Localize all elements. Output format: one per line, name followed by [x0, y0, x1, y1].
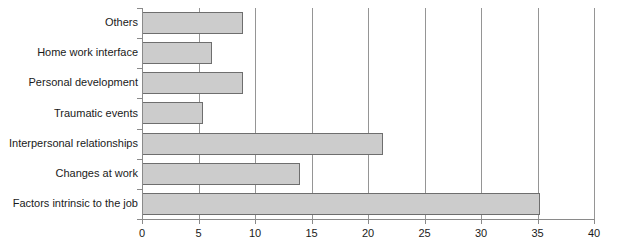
- category-label: Traumatic events: [4, 107, 138, 119]
- x-tick-label: 40: [588, 227, 600, 239]
- bar-chart: OthersHome work interfacePersonal develo…: [0, 0, 620, 251]
- x-tick: [481, 219, 482, 224]
- x-tick: [594, 219, 595, 224]
- category-label: Changes at work: [4, 167, 138, 179]
- x-tick-label: 10: [249, 227, 261, 239]
- x-tick: [538, 219, 539, 224]
- bar-row: [142, 98, 594, 128]
- x-tick: [368, 219, 369, 224]
- y-axis-line: [142, 8, 143, 220]
- x-tick-label: 20: [362, 227, 374, 239]
- y-tick: [137, 129, 142, 130]
- category-label: Home work interface: [4, 46, 138, 58]
- x-tick: [255, 219, 256, 224]
- bar-row: [142, 38, 594, 68]
- x-tick: [199, 219, 200, 224]
- plot-area: [142, 8, 594, 219]
- y-tick: [137, 68, 142, 69]
- bar: [142, 193, 540, 215]
- bar: [142, 102, 203, 124]
- y-tick: [137, 189, 142, 190]
- x-tick-label: 35: [531, 227, 543, 239]
- x-tick-label: 30: [475, 227, 487, 239]
- bar: [142, 163, 300, 185]
- x-tick-label: 5: [195, 227, 201, 239]
- x-tick-label: 0: [139, 227, 145, 239]
- category-label: Others: [4, 16, 138, 28]
- y-tick: [137, 98, 142, 99]
- bar-row: [142, 129, 594, 159]
- bar: [142, 133, 383, 155]
- x-tick: [142, 219, 143, 224]
- bar-row: [142, 159, 594, 189]
- y-tick: [137, 38, 142, 39]
- category-axis-labels: OthersHome work interfacePersonal develo…: [0, 8, 138, 219]
- x-tick: [425, 219, 426, 224]
- bar: [142, 72, 243, 94]
- y-tick: [137, 159, 142, 160]
- bar-row: [142, 68, 594, 98]
- bar-row: [142, 8, 594, 38]
- bar-row: [142, 189, 594, 219]
- x-tick-label: 15: [305, 227, 317, 239]
- y-tick: [137, 8, 142, 9]
- x-tick-label: 25: [418, 227, 430, 239]
- bar: [142, 12, 243, 34]
- category-label: Factors intrinsic to the job: [4, 197, 138, 209]
- category-label: Personal development: [4, 76, 138, 88]
- bar: [142, 42, 212, 64]
- gridline-40: [594, 8, 595, 219]
- x-tick: [312, 219, 313, 224]
- category-label: Interpersonal relationships: [4, 137, 138, 149]
